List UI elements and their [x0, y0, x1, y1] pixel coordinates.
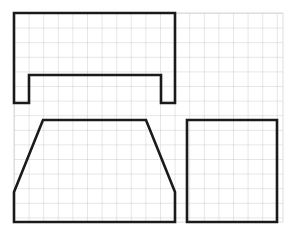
graph-paper-grid	[14, 13, 283, 222]
drawing-sheet	[0, 0, 293, 234]
technical-drawing-canvas	[0, 0, 293, 234]
